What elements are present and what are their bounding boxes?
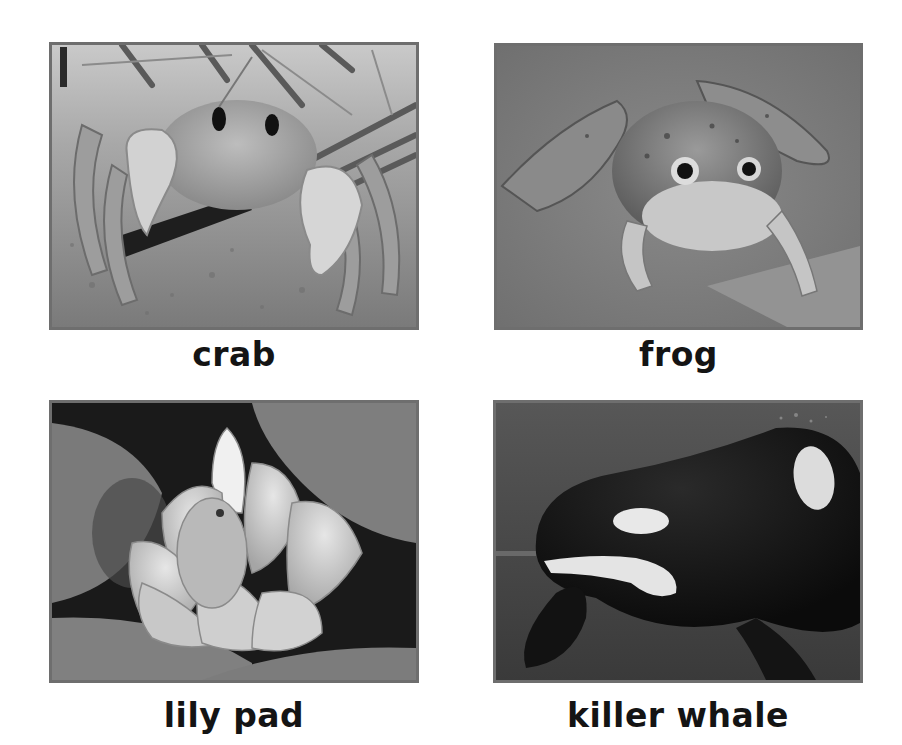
frog-image: [497, 46, 860, 327]
frog-photo: [494, 43, 863, 330]
crab-image: [52, 45, 416, 327]
card-label-killer-whale: killer whale: [493, 699, 863, 732]
lily-pad-photo: [49, 400, 419, 683]
crab-photo: [49, 42, 419, 330]
killer-whale-image: [496, 403, 860, 680]
card-label-frog: frog: [494, 338, 863, 371]
card-label-lily-pad: lily pad: [49, 699, 419, 732]
lily-pad-image: [52, 403, 416, 680]
killer-whale-photo: [493, 400, 863, 683]
card-label-crab: crab: [49, 338, 419, 371]
